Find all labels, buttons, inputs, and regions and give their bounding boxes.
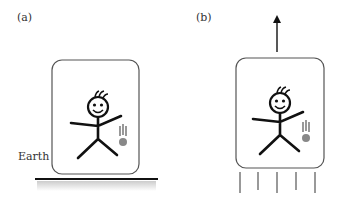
diagram-canvas xyxy=(0,0,345,201)
panel-b xyxy=(236,15,324,193)
panel-a xyxy=(35,60,158,191)
